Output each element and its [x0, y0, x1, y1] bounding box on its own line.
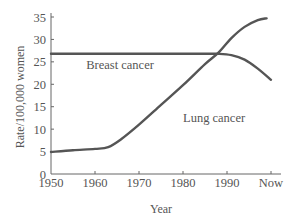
x-axis-title: Year — [150, 202, 172, 216]
y-axis: 05101520253035 — [34, 11, 55, 182]
y-tick-label: 25 — [34, 55, 47, 69]
y-axis-title: Rate/100,000 women — [13, 46, 27, 149]
breast-cancer-label: Breast cancer — [86, 58, 155, 72]
line-chart: 05101520253035 19501960197019801990Now B… — [0, 0, 297, 223]
lung-cancer-line — [51, 18, 267, 152]
y-tick-label: 20 — [34, 78, 47, 92]
y-tick-label: 30 — [34, 33, 47, 47]
x-tick-label: 1960 — [83, 176, 108, 190]
y-tick-label: 15 — [34, 100, 47, 114]
y-tick-label: 5 — [40, 145, 46, 159]
x-tick-label: 1950 — [39, 176, 64, 190]
x-tick-label: 1990 — [215, 176, 240, 190]
x-tick-label: 1980 — [171, 176, 196, 190]
annotations: Breast cancerLung cancer — [86, 58, 246, 126]
lung-cancer-label: Lung cancer — [183, 111, 246, 125]
x-tick-label: 1970 — [127, 176, 152, 190]
series-lines — [51, 18, 271, 152]
breast-cancer-line — [51, 54, 271, 80]
y-tick-label: 35 — [34, 11, 47, 25]
x-tick-label: Now — [259, 176, 283, 190]
x-axis: 19501960197019801990Now — [39, 171, 284, 190]
y-tick-label: 10 — [34, 123, 47, 137]
